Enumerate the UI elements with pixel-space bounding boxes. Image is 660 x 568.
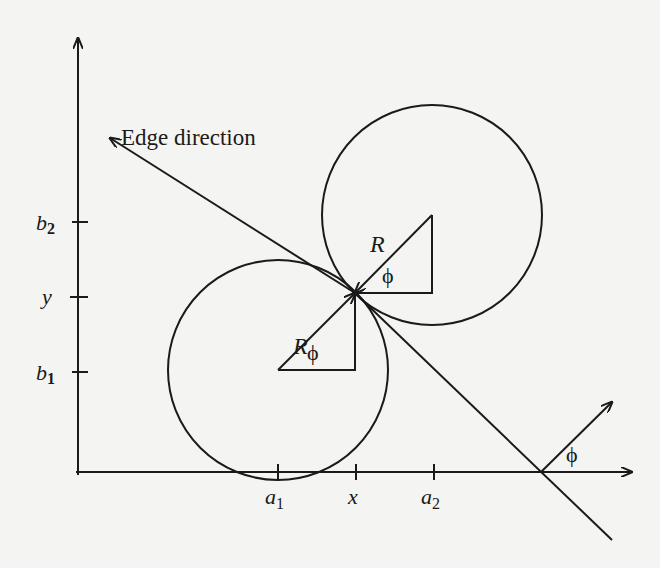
svg-text:x: x — [347, 484, 358, 509]
y-tick-b1: b1 — [36, 360, 88, 387]
y-tick-b2: b2 — [36, 210, 88, 237]
lower-radius-label: R — [292, 333, 308, 359]
upper-radius-label: R — [369, 231, 385, 257]
svg-text:b1: b1 — [36, 360, 55, 387]
edge-point — [352, 290, 358, 296]
lower-angle-label: ϕ — [307, 340, 319, 365]
edge-direction-label: Edge direction — [121, 125, 256, 150]
svg-text:y: y — [40, 284, 52, 309]
y-tick-y: y — [40, 284, 88, 309]
hough-circle-diagram: b2 y b1 a1 x a2 R ϕ R ϕ Edge direction ϕ — [0, 0, 660, 568]
svg-text:a2: a2 — [421, 484, 440, 512]
upper-angle-label: ϕ — [382, 263, 394, 288]
svg-text:a1: a1 — [265, 484, 284, 512]
x-tick-x: x — [347, 464, 358, 509]
gradient-angle-label: ϕ — [566, 442, 578, 467]
gradient-line — [355, 293, 612, 540]
svg-text:b2: b2 — [36, 210, 55, 237]
